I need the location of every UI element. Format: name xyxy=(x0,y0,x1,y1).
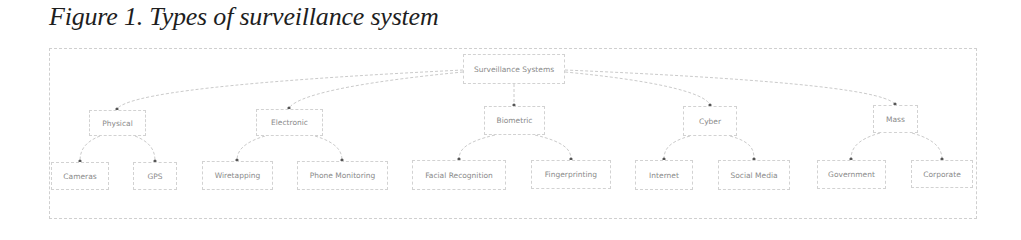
edge-mass-corporate xyxy=(912,133,942,159)
node-gps: GPS xyxy=(133,162,177,190)
node-biometric: Biometric xyxy=(484,106,545,135)
edge-root-electronic xyxy=(289,72,463,108)
node-cameras: Cameras xyxy=(51,162,109,190)
node-government: Government xyxy=(817,160,886,189)
node-internet: Internet xyxy=(635,160,693,190)
edge-biometric-facial xyxy=(459,135,495,159)
edge-root-cyber xyxy=(565,72,710,105)
node-corporate: Corporate xyxy=(911,160,973,188)
node-phone-monitoring: Phone Monitoring xyxy=(297,161,388,190)
node-electronic: Electronic xyxy=(256,109,323,136)
edge-cyber-social xyxy=(730,136,754,159)
node-social-media: Social Media xyxy=(718,160,790,190)
node-facial-recognition: Facial Recognition xyxy=(412,160,506,190)
edge-electronic-wiretapping xyxy=(237,136,265,160)
edge-cyber-internet xyxy=(664,136,690,159)
node-cyber: Cyber xyxy=(683,106,737,136)
node-surveillance-systems: Surveillance Systems xyxy=(463,54,565,84)
edge-physical-cameras xyxy=(80,136,100,161)
edge-root-mass xyxy=(565,70,895,104)
node-fingerprinting: Fingerprinting xyxy=(531,160,611,189)
node-mass: Mass xyxy=(873,105,918,133)
edge-root-physical xyxy=(117,70,463,109)
node-physical: Physical xyxy=(89,110,146,136)
edge-physical-gps xyxy=(135,136,155,161)
edge-electronic-phone xyxy=(315,136,342,160)
edge-mass-government xyxy=(851,133,880,159)
edge-biometric-fingerprinting xyxy=(535,135,571,159)
node-wiretapping: Wiretapping xyxy=(202,161,273,190)
